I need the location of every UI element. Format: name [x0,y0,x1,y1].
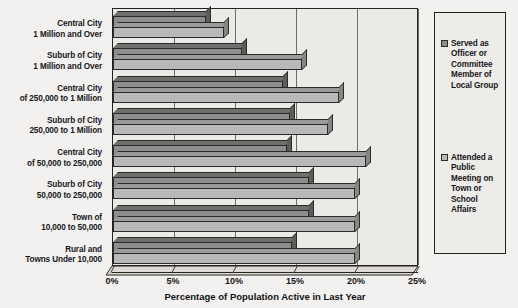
y-axis-label: Town of10,000 to 50,000 [0,213,102,234]
bar-front-face [113,188,355,199]
legend-label-line: Attended a [451,153,493,163]
legend-label-line: Local Group [451,81,498,91]
legend-label-line: Served as [451,39,498,49]
y-axis-label: Central Cityof 50,000 to 250,000 [0,148,102,169]
bar-attended-public-meeting [113,188,355,199]
y-axis-label-line: Suburb of City [0,180,102,191]
y-axis-label-line: 50,000 to 250,000 [0,191,102,202]
bar-attended-public-meeting [113,27,224,38]
bar-front-face [113,221,355,232]
y-axis-label: Rural andTowns Under 10,000 [0,245,102,266]
legend-label-line: Town or [451,184,493,194]
y-axis-label: Suburb of City50,000 to 250,000 [0,180,102,201]
bar-attended-public-meeting [113,156,366,167]
legend-label-line: Officer or [451,49,498,59]
legend-label-line: Member of [451,70,498,80]
x-axis-tick-label: 15% [286,276,304,286]
x-axis-line [112,272,418,273]
y-axis-label-line: Central City [0,84,102,95]
bar-attended-public-meeting [113,221,355,232]
legend-entry: Served asOfficer orCommitteeMember ofLoc… [441,39,505,91]
bar-side-face [355,211,360,232]
x-axis-tick-label: 25% [408,276,426,286]
bar-side-face [366,146,371,167]
y-axis-label-line: 10,000 to 50,000 [0,223,102,234]
legend-swatch-icon [441,154,448,161]
bar-front-face [113,124,328,135]
x-axis-tick-label: 10% [225,276,243,286]
bar-attended-public-meeting [113,124,328,135]
y-axis-label: Central City1 Million and Over [0,19,102,40]
bar-front-face [113,27,224,38]
y-axis-label-line: 1 Million and Over [0,62,102,73]
bar-attended-public-meeting [113,253,355,264]
y-axis-label-line: 1 Million and Over [0,30,102,41]
y-axis-label-line: Suburb of City [0,51,102,62]
bar-attended-public-meeting [113,59,302,70]
y-axis-label-line: Central City [0,148,102,159]
chart-figure: Central City1 Million and OverSuburb of … [0,0,518,308]
bar-side-face [224,17,229,38]
y-axis-label-line: 250,000 to 1 Million [0,126,102,137]
bar-side-face [355,243,360,264]
legend-entry: Attended aPublicMeeting onTown orSchoolA… [441,153,505,215]
y-axis-label: Suburb of City250,000 to 1 Million [0,116,102,137]
plot-area [112,8,418,266]
bar-side-face [339,82,344,103]
legend-label: Served asOfficer orCommitteeMember ofLoc… [451,39,498,91]
gridline [418,9,419,265]
y-axis-label-line: Central City [0,19,102,30]
bar-front-face [113,59,302,70]
y-axis-label-line: of 250,000 to 1 Million [0,94,102,105]
legend-label-line: Committee [451,60,498,70]
axis-floor [106,264,424,276]
y-axis-label-line: Towns Under 10,000 [0,255,102,266]
bar-side-face [328,114,333,135]
y-axis-label: Suburb of City1 Million and Over [0,51,102,72]
bar-side-face [355,178,360,199]
legend-label: Attended aPublicMeeting onTown orSchoolA… [451,153,493,215]
y-axis-label-line: Suburb of City [0,116,102,127]
bar-attended-public-meeting [113,92,339,103]
legend-label-line: Meeting on [451,174,493,184]
chart-legend: Served asOfficer orCommitteeMember ofLoc… [434,12,506,254]
x-axis-tick-label: 0% [105,276,118,286]
x-axis-tick-label: 20% [347,276,365,286]
y-axis-label-line: Rural and [0,245,102,256]
x-axis-tick-label: 5% [166,276,179,286]
bar-front-face [113,253,355,264]
bar-front-face [113,92,339,103]
legend-label-line: Affairs [451,205,493,215]
y-axis-category-labels: Central City1 Million and OverSuburb of … [0,12,106,262]
x-axis-title: Percentage of Population Active in Last … [112,291,418,302]
y-axis-label-line: of 50,000 to 250,000 [0,159,102,170]
bar-side-face [302,49,307,70]
legend-label-line: Public [451,163,493,173]
y-axis-label-line: Town of [0,213,102,224]
legend-label-line: School [451,195,493,205]
bar-front-face [113,156,366,167]
y-axis-label: Central Cityof 250,000 to 1 Million [0,84,102,105]
legend-swatch-icon [441,40,448,47]
